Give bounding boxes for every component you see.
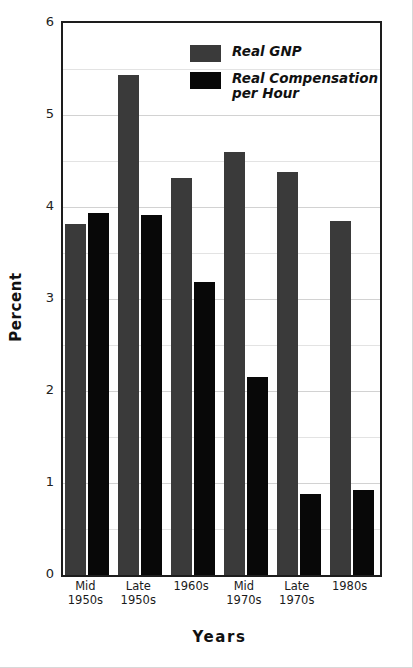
bar [194, 282, 215, 575]
bar [300, 494, 321, 575]
y-axis-ticks: 0123456 [26, 0, 54, 668]
y-tick-label: 4 [28, 198, 54, 213]
legend-entry-real-gnp: Real GNP [190, 44, 380, 62]
x-tick-label: Mid 1950s [59, 579, 112, 607]
y-tick-label: 1 [28, 474, 54, 489]
legend-label-real-compensation: Real Compensation per Hour [232, 71, 378, 102]
bar [247, 377, 268, 575]
chart-figure: Percent 0123456 Real GNP Real Compensati… [0, 0, 413, 668]
gridline-minor [63, 161, 380, 162]
legend-label-real-gnp: Real GNP [232, 44, 302, 59]
compensation-swatch-icon [190, 72, 221, 89]
y-tick-label: 2 [28, 382, 54, 397]
gridline-major [63, 115, 380, 116]
bar [330, 221, 351, 575]
chart-legend: Real GNP Real Compensation per Hour [190, 44, 380, 111]
legend-entry-real-compensation: Real Compensation per Hour [190, 71, 380, 102]
x-tick-label: 1980s [323, 579, 376, 593]
y-tick-label: 3 [28, 290, 54, 305]
x-axis-label: Years [61, 628, 378, 646]
x-axis-ticks: Mid 1950sLate 1950s1960sMid 1970sLate 19… [61, 579, 378, 619]
bar [224, 152, 245, 575]
x-tick-label: 1960s [165, 579, 218, 593]
x-tick-label: Late 1950s [112, 579, 165, 607]
gnp-swatch-icon [190, 45, 221, 62]
bar [353, 490, 374, 575]
bar [277, 172, 298, 575]
y-tick-label: 6 [28, 14, 54, 29]
x-tick-label: Mid 1970s [217, 579, 270, 607]
gridline-major [63, 207, 380, 208]
x-tick-label: Late 1970s [270, 579, 323, 607]
y-tick-label: 0 [28, 566, 54, 581]
bar [65, 224, 86, 575]
bar [88, 213, 109, 575]
y-axis-label-container: Percent [4, 250, 28, 370]
bar [141, 215, 162, 575]
y-tick-label: 5 [28, 106, 54, 121]
bar [118, 75, 139, 575]
bar [171, 178, 192, 575]
y-axis-label: Percent [7, 247, 25, 367]
